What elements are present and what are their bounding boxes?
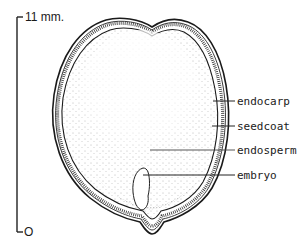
scale-top-label: 11 mm. bbox=[25, 10, 64, 24]
label-embryo: embryo bbox=[237, 169, 277, 182]
label-endosperm: endosperm bbox=[237, 144, 297, 157]
scale-bottom-label: O bbox=[24, 225, 33, 239]
label-seedcoat: seedcoat bbox=[237, 120, 290, 133]
label-endocarp: endocarp bbox=[237, 95, 290, 108]
seed-diagram: 11 mm. O endocarp seedcoat endosperm emb… bbox=[0, 0, 305, 246]
